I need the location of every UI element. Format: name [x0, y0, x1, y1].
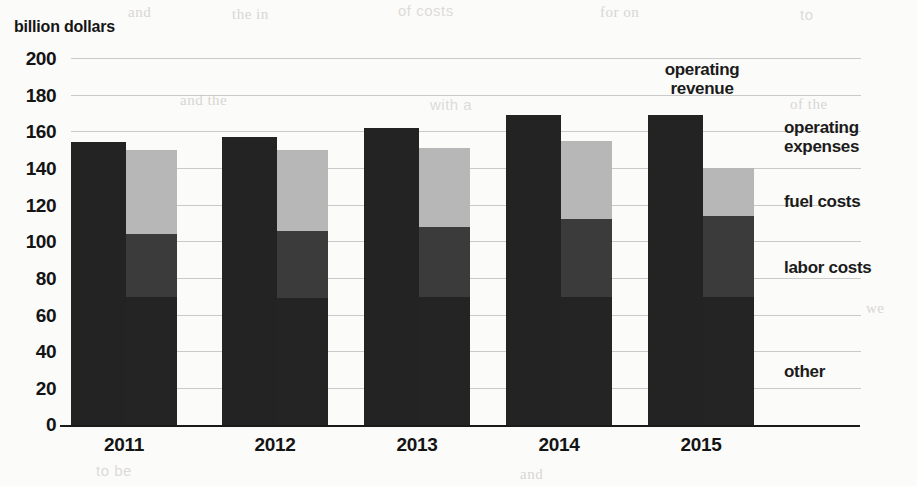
y-tick-100: 100: [8, 231, 56, 253]
scan-artifact-text: to: [800, 6, 814, 23]
x-tick-2013: 2013: [364, 434, 470, 456]
scan-artifact-text: we: [866, 300, 885, 317]
bar-other-2014[interactable]: [561, 297, 612, 425]
bar-operating-revenue-2012[interactable]: [222, 137, 277, 425]
scan-artifact-text: for on: [600, 4, 639, 21]
series-label-other: other: [784, 362, 825, 381]
bar-other-2011[interactable]: [126, 297, 177, 425]
bar-operating-revenue-2015[interactable]: [648, 115, 703, 425]
y-tick-60: 60: [8, 305, 56, 327]
x-axis-line: [60, 425, 860, 427]
series-label-operating-expenses: operating expenses: [784, 118, 859, 156]
y-tick-140: 140: [8, 158, 56, 180]
y-tick-160: 160: [8, 121, 56, 143]
scan-artifact-text: and: [128, 4, 151, 21]
bar-operating-revenue-2013[interactable]: [364, 128, 419, 425]
scan-artifact-text: of the: [790, 96, 828, 113]
annotation-operating-revenue: operating revenue: [638, 60, 766, 98]
y-tick-120: 120: [8, 195, 56, 217]
x-tick-2012: 2012: [222, 434, 328, 456]
y-tick-40: 40: [8, 341, 56, 363]
series-label-labor-costs: labor costs: [784, 258, 871, 277]
bar-other-2012[interactable]: [277, 298, 328, 425]
y-tick-180: 180: [8, 85, 56, 107]
x-tick-2014: 2014: [506, 434, 612, 456]
scan-artifact-text: the in: [232, 6, 269, 23]
series-label-fuel-costs: fuel costs: [784, 192, 860, 211]
bar-other-2013[interactable]: [419, 297, 470, 425]
gridline-200: [71, 58, 861, 59]
annotation-line-2: revenue: [638, 79, 766, 98]
scan-artifact-text: to be: [96, 462, 132, 479]
bar-other-2015[interactable]: [703, 297, 754, 425]
series-label-line-1: operating: [784, 118, 859, 137]
y-tick-0: 0: [8, 414, 56, 436]
scan-artifact-text: of costs: [398, 2, 454, 19]
y-tick-200: 200: [8, 48, 56, 70]
scan-artifact-text: and: [520, 466, 543, 483]
y-tick-20: 20: [8, 378, 56, 400]
scan-artifact-text: with a: [430, 96, 472, 113]
bar-operating-revenue-2011[interactable]: [71, 142, 126, 425]
x-tick-2015: 2015: [648, 434, 754, 456]
chart-page: and the in of costs for on to and the wi…: [0, 0, 917, 486]
y-axis-title: billion dollars: [14, 18, 115, 36]
gridline-160: [71, 131, 861, 132]
bar-operating-revenue-2014[interactable]: [506, 115, 561, 425]
x-tick-2011: 2011: [71, 434, 177, 456]
y-tick-80: 80: [8, 268, 56, 290]
annotation-line-1: operating: [638, 60, 766, 79]
series-label-line-2: expenses: [784, 137, 859, 156]
